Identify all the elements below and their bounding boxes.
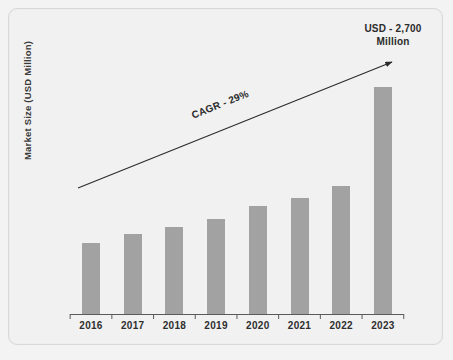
x-axis-label-2019: 2019 — [195, 320, 237, 331]
x-axis-labels: 20162017201820192020202120222023 — [0, 0, 453, 360]
chart-screenshot: Market Size (USD Million) CAGR - 29% USD… — [0, 0, 453, 360]
x-axis-label-2021: 2021 — [279, 320, 321, 331]
x-axis-label-2018: 2018 — [153, 320, 195, 331]
x-axis-label-2022: 2022 — [320, 320, 362, 331]
x-axis-label-2017: 2017 — [112, 320, 154, 331]
x-axis-label-2020: 2020 — [237, 320, 279, 331]
x-axis-label-2023: 2023 — [362, 320, 404, 331]
x-axis-label-2016: 2016 — [70, 320, 112, 331]
